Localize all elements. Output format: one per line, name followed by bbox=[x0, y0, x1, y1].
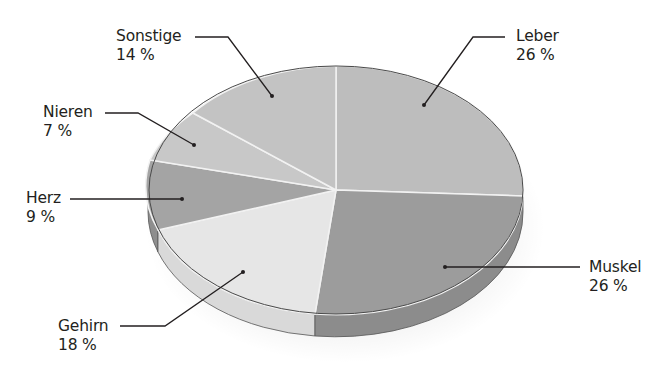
label-leber-value: 26 % bbox=[516, 46, 559, 65]
label-leber: Leber 26 % bbox=[516, 27, 559, 65]
label-nieren-name: Nieren bbox=[43, 103, 93, 122]
label-nieren: Nieren 7 % bbox=[43, 103, 93, 141]
label-sonstige-name: Sonstige bbox=[116, 27, 181, 46]
label-herz: Herz 9 % bbox=[26, 189, 61, 227]
slice-leber bbox=[336, 66, 523, 196]
label-herz-value: 9 % bbox=[26, 208, 61, 227]
label-muskel: Muskel 26 % bbox=[589, 258, 641, 296]
label-leber-name: Leber bbox=[516, 27, 559, 46]
label-sonstige: Sonstige 14 % bbox=[116, 27, 181, 65]
label-nieren-value: 7 % bbox=[43, 122, 93, 141]
label-herz-name: Herz bbox=[26, 189, 61, 208]
label-gehirn-value: 18 % bbox=[58, 336, 108, 355]
label-gehirn: Gehirn 18 % bbox=[58, 317, 108, 355]
label-gehirn-name: Gehirn bbox=[58, 317, 108, 336]
label-sonstige-value: 14 % bbox=[116, 46, 181, 65]
label-muskel-value: 26 % bbox=[589, 277, 641, 296]
label-muskel-name: Muskel bbox=[589, 258, 641, 277]
